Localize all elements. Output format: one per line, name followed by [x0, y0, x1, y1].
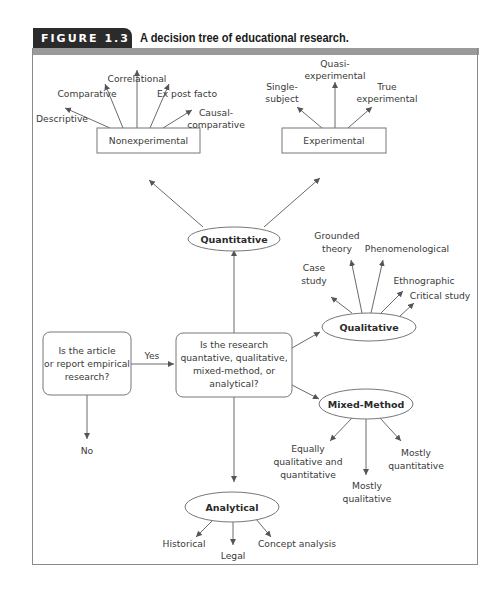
leaf-single-subject-line-2: subject — [265, 93, 299, 104]
edge-to-qualitative — [292, 332, 320, 348]
edge-concept-analysis — [256, 519, 271, 537]
edge-to-mixed-method — [292, 385, 319, 399]
leaf-mostly-quantitative-line-1: Mostly — [401, 447, 431, 458]
leaf-causal-comparative-line-1: Causal- — [199, 107, 233, 118]
empirical-question-line-3: research? — [65, 371, 110, 382]
edge-true-experimental — [348, 107, 372, 128]
qualitative-label: Qualitative — [339, 322, 398, 333]
empirical-question-box: Is the article or report empirical resea… — [43, 332, 131, 395]
leaf-legal: Legal — [221, 550, 246, 561]
empirical-question-line-2: or report empirical — [44, 358, 130, 369]
edge-critical-study — [398, 303, 414, 318]
leaf-descriptive: Descriptive — [36, 113, 88, 124]
no-label: No — [81, 445, 94, 456]
leaf-case-study-line-2: study — [301, 275, 327, 286]
leaf-quasi-experimental-line-1: Quasi- — [320, 58, 349, 69]
edge-phenomenological — [371, 260, 383, 313]
edge-single-subject — [297, 107, 322, 128]
edge-historical — [196, 519, 214, 537]
leaf-mostly-qualitative-line-1: Mostly — [352, 480, 382, 491]
leaf-mostly-qualitative-line-2: qualitative — [343, 493, 392, 504]
edge-ethnographic — [380, 291, 403, 314]
leaf-critical-study: Critical study — [410, 290, 471, 301]
leaf-ex-post-facto: Ex post facto — [157, 88, 217, 99]
edge-to-nonexperimental — [149, 180, 203, 227]
leaf-phenomenological: Phenomenological — [365, 243, 449, 254]
edge-grounded-theory — [351, 260, 362, 313]
leaf-concept-analysis: Concept analysis — [258, 538, 336, 549]
edge-case-study — [331, 297, 352, 313]
leaf-equally-line-1: Equally — [291, 443, 325, 454]
analytical-label: Analytical — [205, 502, 258, 513]
mixed-method-oval: Mixed-Method — [319, 389, 413, 419]
yes-label: Yes — [144, 350, 160, 361]
edge-to-experimental — [264, 178, 320, 227]
leaf-ethnographic: Ethnographic — [393, 275, 454, 286]
experimental-box: Experimental — [282, 128, 386, 153]
edge-mostly-quantitative — [380, 418, 401, 441]
leaf-causal-comparative-line-2: comparative — [187, 119, 245, 130]
research-question-line-1: Is the research — [200, 339, 268, 350]
experimental-label: Experimental — [303, 135, 364, 146]
nonexperimental-label: Nonexperimental — [109, 135, 188, 146]
research-question-line-4: analytical? — [209, 378, 258, 389]
research-question-line-3: mixed-method, or — [193, 365, 275, 376]
leaf-equally-line-2: qualitative and — [273, 456, 342, 467]
mixed-method-label: Mixed-Method — [328, 399, 405, 410]
leaf-single-subject-line-1: Single- — [266, 81, 298, 92]
leaf-historical: Historical — [162, 538, 205, 549]
qualitative-oval: Qualitative — [322, 313, 416, 341]
leaf-correlational: Correlational — [108, 73, 167, 84]
leaf-comparative: Comparative — [57, 88, 116, 99]
leaf-grounded-theory-line-2: theory — [322, 243, 352, 254]
leaf-equally-line-3: quantitative — [280, 469, 336, 480]
edge-equally — [330, 418, 352, 441]
leaf-mostly-quantitative-line-2: quantitative — [388, 460, 444, 471]
leaf-true-experimental-line-2: experimental — [357, 93, 418, 104]
leaf-case-study-line-1: Case — [303, 262, 326, 273]
leaf-quasi-experimental-line-2: experimental — [305, 70, 366, 81]
quantitative-oval: Quantitative — [188, 227, 280, 251]
research-question-line-2: quantative, qualitative, — [180, 352, 287, 363]
analytical-oval: Analytical — [185, 492, 279, 522]
leaf-true-experimental-line-1: True — [376, 81, 397, 92]
decision-tree-diagram: Nonexperimental Experimental Is the arti… — [0, 0, 504, 591]
leaf-grounded-theory-line-1: Grounded — [314, 230, 359, 241]
quantitative-label: Quantitative — [200, 234, 267, 245]
nonexperimental-box: Nonexperimental — [97, 128, 200, 153]
research-question-box: Is the research quantative, qualitative,… — [176, 333, 292, 397]
empirical-question-line-1: Is the article — [58, 345, 116, 356]
